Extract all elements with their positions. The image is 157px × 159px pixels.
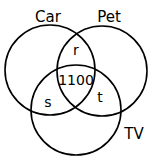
region-pet-tv-label: t xyxy=(97,89,103,105)
region-car-tv-label: s xyxy=(44,94,51,110)
tv-set-label: TV xyxy=(123,125,144,143)
car-set-label: Car xyxy=(35,8,62,26)
venn-diagram: Car Pet TV r 1100 s t xyxy=(0,0,157,159)
region-car-pet-label: r xyxy=(73,42,79,58)
region-all-three-label: 1100 xyxy=(58,72,94,88)
pet-set-label: Pet xyxy=(97,8,121,26)
